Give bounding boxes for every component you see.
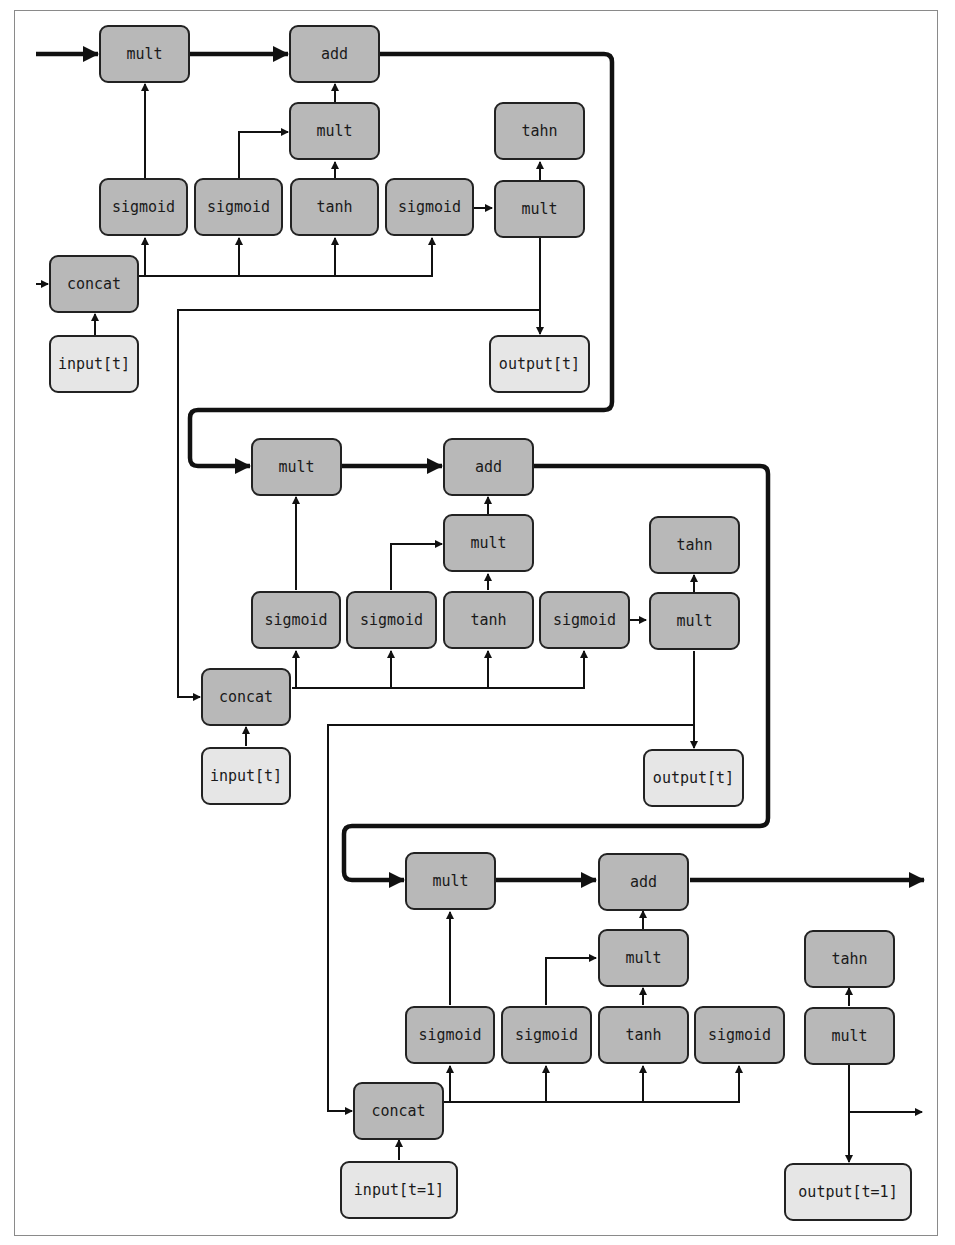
cell2-add-node: add: [443, 438, 534, 496]
cell3-tahn-node: tahn: [804, 930, 895, 988]
cell3-input-mult-node: mult: [598, 929, 689, 987]
cell2-forget-sigmoid-node: sigmoid: [251, 591, 341, 649]
cell1-output-mult-node: mult: [494, 180, 585, 238]
cell2-tanh-node: tanh: [443, 591, 534, 649]
cell2-input-node: input[t]: [201, 747, 291, 805]
cell1-output-sigmoid-node: sigmoid: [385, 178, 474, 236]
cell1-forget-sigmoid-node: sigmoid: [99, 178, 188, 236]
cell1-add-node: add: [289, 25, 380, 83]
cell2-tahn-node: tahn: [649, 516, 740, 574]
cell2-input-sigmoid-node: sigmoid: [346, 591, 437, 649]
cell2-forget-mult-node: mult: [251, 438, 342, 496]
cell3-input-sigmoid-node: sigmoid: [501, 1006, 592, 1064]
cell1-tanh-node: tanh: [290, 178, 379, 236]
cell3-forget-mult-node: mult: [405, 852, 496, 910]
cell3-concat-node: concat: [353, 1082, 444, 1140]
cell1-tahn-node: tahn: [494, 102, 585, 160]
cell1-output-node: output[t]: [489, 335, 590, 393]
cell1-input-mult-node: mult: [289, 102, 380, 160]
cell3-input-node: input[t=1]: [340, 1161, 458, 1219]
cell1-forget-mult-node: mult: [99, 25, 190, 83]
cell2-output-node: output[t]: [643, 749, 744, 807]
cell2-output-mult-node: mult: [649, 592, 740, 650]
cell1-concat-node: concat: [49, 255, 139, 313]
cell3-forget-sigmoid-node: sigmoid: [405, 1006, 495, 1064]
cell2-input-mult-node: mult: [443, 514, 534, 572]
cell1-input-node: input[t]: [49, 335, 139, 393]
cell2-output-sigmoid-node: sigmoid: [539, 591, 630, 649]
cell3-output-node: output[t=1]: [784, 1163, 912, 1221]
cell3-output-mult-node: mult: [804, 1007, 895, 1065]
cell1-input-sigmoid-node: sigmoid: [194, 178, 283, 236]
cell3-add-node: add: [598, 853, 689, 911]
cell2-concat-node: concat: [201, 668, 291, 726]
cell3-output-sigmoid-node: sigmoid: [694, 1006, 785, 1064]
cell3-tanh-node: tanh: [598, 1006, 689, 1064]
